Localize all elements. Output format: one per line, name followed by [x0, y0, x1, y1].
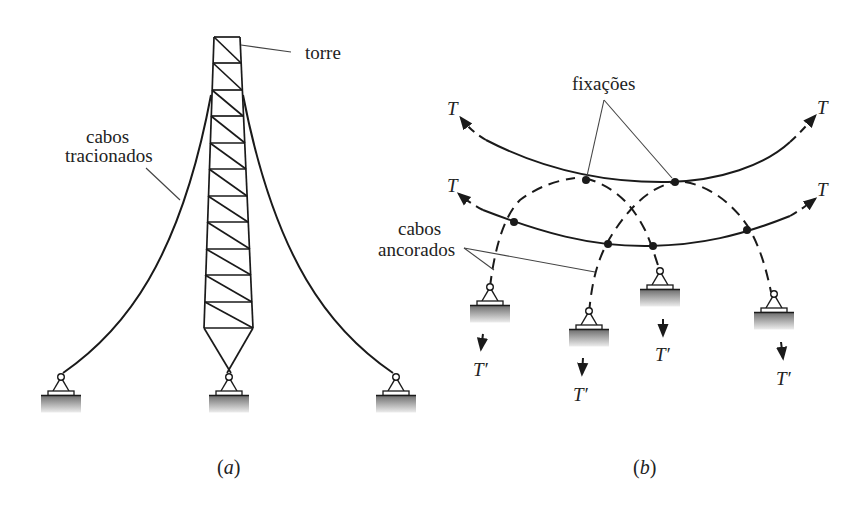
right-cable — [243, 95, 393, 373]
cables-label-line2: tracionados — [65, 145, 153, 166]
figure-a: torre cabos tracionados (a) — [41, 37, 416, 479]
anchored-label-line1: cabos — [398, 218, 441, 239]
tower — [204, 37, 253, 373]
cables-leader — [146, 168, 180, 200]
support-center-a — [209, 374, 249, 413]
reaction-label-4: T′ — [776, 368, 792, 389]
caption-a: (a) — [217, 456, 240, 479]
reaction-label-2: T′ — [573, 384, 589, 405]
support-b4 — [754, 291, 794, 330]
tension-label-top-left: T — [447, 98, 459, 119]
anchor-cable-2 — [585, 178, 659, 268]
support-right-a — [376, 374, 416, 413]
caption-b: (b) — [633, 456, 656, 479]
cables-label-line1: cabos — [86, 126, 129, 147]
tension-label-top-right: T — [817, 97, 829, 118]
reaction-arrows — [481, 319, 783, 374]
anchored-label-line2: ancorados — [378, 239, 455, 260]
upper-cable — [461, 116, 815, 182]
diagram-canvas: torre cabos tracionados (a) — [0, 0, 861, 517]
tension-label-mid-right: T — [817, 179, 829, 200]
tension-label-mid-left: T — [447, 175, 459, 196]
support-b1 — [470, 284, 510, 323]
tower-leader — [241, 45, 291, 52]
tower-label: torre — [305, 42, 341, 63]
support-b3 — [640, 268, 680, 307]
fixings-label: fixações — [572, 73, 635, 94]
reaction-label-3: T′ — [655, 344, 671, 365]
support-b2 — [569, 308, 609, 347]
anchor-cable-1 — [490, 178, 575, 287]
support-left-a — [41, 374, 81, 413]
figure-b: fixações cabos ancorados T T T T T′ T′ T… — [378, 73, 829, 479]
reaction-label-1: T′ — [473, 359, 489, 380]
